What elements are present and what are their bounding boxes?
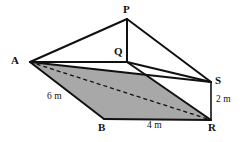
prism-diagram-svg [0,0,244,142]
geometry-figure: A P Q S R B 6 m 4 m 2 m [0,0,244,142]
edge-b-r [104,119,211,120]
edge-a-p [30,19,127,62]
